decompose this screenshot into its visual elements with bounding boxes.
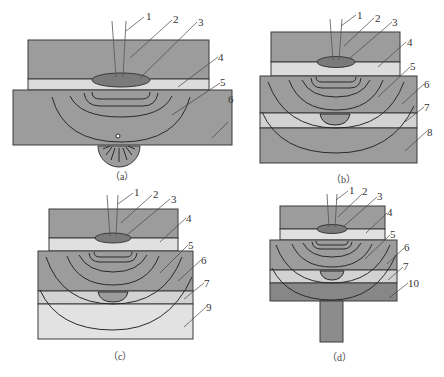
label-d-4: 4 [387, 206, 393, 218]
panel-c: 1 2 3 4 5 6 7 9 （c） [38, 186, 212, 362]
label-a-2: 2 [173, 13, 179, 25]
label-a-1: 1 [146, 10, 152, 22]
label-d-1: 1 [349, 184, 355, 196]
label-c-2: 2 [153, 188, 159, 200]
melt-pool-ellipse [317, 225, 347, 234]
label-b-2: 2 [375, 12, 381, 24]
label-d-2: 2 [362, 185, 368, 197]
label-a-4: 4 [218, 51, 224, 63]
layer-10 [270, 283, 397, 301]
label-d-5: 5 [390, 228, 396, 240]
label-c-1: 1 [134, 186, 140, 198]
melt-pool-ellipse [317, 57, 355, 68]
melt-pool-ellipse [95, 233, 131, 243]
label-c-4: 4 [186, 212, 192, 224]
heat-sink-point [116, 134, 120, 138]
figure-canvas: 1 2 3 4 5 6 （a） [0, 0, 444, 377]
label-b-4: 4 [407, 36, 413, 48]
label-b-3: 3 [392, 16, 398, 28]
melt-pool-ellipse [92, 73, 150, 87]
panel-b: 1 2 3 4 5 6 7 8 （b） [260, 9, 433, 185]
label-a-3: 3 [198, 16, 204, 28]
label-d-3: 3 [377, 190, 383, 202]
panel-a: 1 2 3 4 5 6 （a） [13, 10, 234, 182]
label-c-9: 9 [206, 301, 212, 313]
label-b-1: 1 [357, 9, 363, 21]
label-c-7: 7 [204, 277, 210, 289]
caption-d: （d） [327, 352, 352, 363]
support-stem [320, 301, 343, 342]
label-d-7: 7 [403, 260, 409, 272]
bottom-layer-8 [260, 128, 417, 163]
caption-c: （c） [108, 351, 132, 362]
panel-d: 1 2 3 4 5 6 7 10 （d） [270, 184, 420, 363]
label-c-5: 5 [188, 239, 194, 251]
label-c-3: 3 [171, 193, 177, 205]
label-b-5: 5 [410, 60, 416, 72]
label-c-6: 6 [201, 254, 207, 266]
label-a-6: 6 [228, 93, 234, 105]
label-b-8: 8 [427, 126, 433, 138]
caption-a: （a） [110, 171, 134, 182]
base-plate [13, 90, 232, 145]
label-b-6: 6 [424, 78, 430, 90]
label-d-10: 10 [408, 277, 420, 289]
label-d-6: 6 [404, 241, 410, 253]
label-a-5: 5 [220, 76, 226, 88]
label-b-7: 7 [424, 101, 430, 113]
